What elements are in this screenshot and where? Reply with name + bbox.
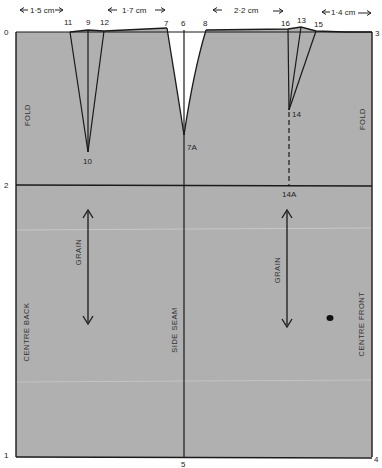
point-1: 1 [4, 451, 9, 460]
point-0: 0 [4, 28, 9, 37]
measure-front-edge: 1·4 cm [322, 8, 371, 17]
point-14a: 14A [282, 190, 297, 199]
centre-back-label: CENTRE BACK [22, 303, 31, 362]
measure-side-dart: 1·7 cm [108, 6, 165, 15]
point-16: 16 [281, 19, 290, 28]
svg-text:1·4 cm: 1·4 cm [331, 8, 356, 17]
point-11: 11 [64, 18, 73, 27]
point-13: 13 [297, 16, 306, 25]
pattern-diagram: 1·5 cm 1·7 cm 2·2 cm 1·4 cm 0 2 1 3 4 5 … [0, 0, 382, 468]
point-7: 7 [164, 19, 169, 28]
back-panel [16, 28, 184, 457]
point-6: 6 [181, 19, 186, 28]
point-5: 5 [181, 460, 186, 468]
svg-text:2·2 cm: 2·2 cm [234, 6, 259, 15]
point-15: 15 [314, 20, 323, 29]
point-14: 14 [292, 110, 301, 119]
point-12: 12 [100, 18, 109, 27]
hem-line [16, 457, 372, 458]
ink-spot [327, 315, 334, 321]
point-3: 3 [375, 29, 380, 38]
side-seam-label: SIDE SEAM [170, 307, 179, 352]
centre-front-label: CENTRE FRONT [357, 292, 366, 357]
svg-text:1·7 cm: 1·7 cm [122, 6, 147, 15]
fold-label-left: FOLD [23, 104, 32, 126]
point-4: 4 [374, 455, 379, 464]
grain-label-front: GRAIN [273, 257, 282, 283]
point-8: 8 [203, 19, 208, 28]
front-panel [184, 27, 372, 457]
svg-text:1·5 cm: 1·5 cm [30, 6, 55, 15]
point-7a: 7A [187, 143, 197, 152]
measure-back-dart: 1·5 cm [20, 6, 63, 15]
point-9: 9 [86, 18, 91, 27]
point-2: 2 [4, 181, 9, 190]
measure-front-dart: 2·2 cm [213, 6, 283, 15]
fold-label-right: FOLD [358, 108, 367, 130]
point-10: 10 [83, 157, 92, 166]
grain-label-back: GRAIN [74, 239, 83, 265]
